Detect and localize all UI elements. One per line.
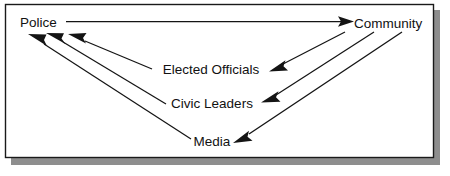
node-label-civic-leaders: Civic Leaders [171,96,253,111]
stakeholder-flow-diagram: Police Community Elected Officials Civic… [0,0,450,176]
diagram-container: Police Community Elected Officials Civic… [0,0,450,176]
node-label-community: Community [354,16,423,31]
node-label-media: Media [194,134,231,149]
node-label-police: Police [20,15,57,30]
node-label-elected-officials: Elected Officials [163,62,260,77]
